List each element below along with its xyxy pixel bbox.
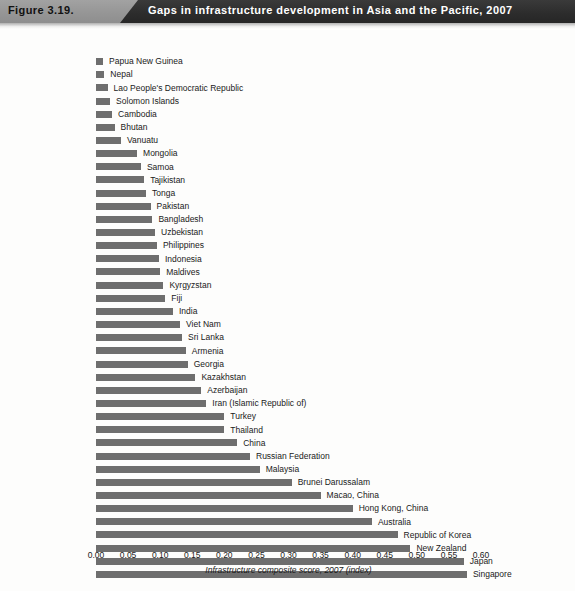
bar: [96, 439, 237, 446]
bar: [96, 361, 188, 368]
bar: [96, 203, 151, 210]
bar: [96, 374, 195, 381]
bar-label: Georgia: [194, 360, 224, 369]
bar-row: India: [96, 305, 197, 318]
bar-label: Samoa: [147, 163, 174, 172]
bar-row: Vanuatu: [96, 134, 158, 147]
bar-label: Mongolia: [143, 149, 178, 158]
bar: [96, 282, 163, 289]
bar: [96, 268, 160, 275]
bar-row: Uzbekistan: [96, 226, 203, 239]
x-tick-label: 0.35: [312, 550, 329, 560]
bar: [96, 111, 112, 118]
figure-title: Gaps in infrastructure development in As…: [148, 4, 513, 16]
bar: [96, 426, 224, 433]
bar-row: Indonesia: [96, 252, 202, 265]
x-tick-label: 0.50: [409, 550, 426, 560]
bar-label: Indonesia: [165, 255, 202, 264]
bar-row: Brunei Darussalam: [96, 476, 370, 489]
bar: [96, 98, 110, 105]
x-axis-ticks: 0.000.050.100.150.200.250.300.350.400.45…: [96, 550, 481, 564]
bar: [96, 124, 115, 131]
bar-row: Malaysia: [96, 463, 299, 476]
bar-label: Uzbekistan: [161, 228, 203, 237]
bar-label: Azerbaijan: [207, 386, 247, 395]
bar-row: Sri Lanka: [96, 331, 224, 344]
bar-row: Macao, China: [96, 489, 379, 502]
bar: [96, 387, 201, 394]
bar: [96, 58, 103, 65]
bar-row: Viet Nam: [96, 318, 221, 331]
bar-label: Maldives: [166, 268, 200, 277]
bar: [96, 453, 250, 460]
figure-number: Figure 3.19.: [8, 4, 74, 16]
bar-label: China: [243, 439, 265, 448]
bar-row: Azerbaijan: [96, 384, 247, 397]
bar: [96, 242, 157, 249]
bar: [96, 255, 159, 262]
bar-row: Fiji: [96, 292, 182, 305]
bar-label: Russian Federation: [256, 452, 330, 461]
bar-label: Sri Lanka: [188, 333, 224, 342]
bar-label: Pakistan: [157, 202, 190, 211]
bar-row: Papua New Guinea: [96, 55, 183, 68]
bar-label: Kazakhstan: [201, 373, 245, 382]
bar-row: Bangladesh: [96, 213, 203, 226]
bar: [96, 321, 180, 328]
bar-chart: Papua New GuineaNepalLao People's Democr…: [0, 29, 575, 591]
bar-row: Samoa: [96, 160, 174, 173]
bar: [96, 216, 152, 223]
bar: [96, 150, 137, 157]
bar: [96, 308, 173, 315]
bar-row: Australia: [96, 515, 411, 528]
bar: [96, 492, 321, 499]
bar-label: Tonga: [152, 189, 175, 198]
bar-row: Tajikistan: [96, 173, 185, 186]
x-tick-label: 0.60: [473, 550, 490, 560]
bar-label: Tajikistan: [150, 176, 185, 185]
bar-label: Papua New Guinea: [109, 57, 183, 66]
bar-row: Nepal: [96, 68, 133, 81]
bar-row: Iran (Islamic Republic of): [96, 397, 306, 410]
bar-label: Philippines: [163, 241, 204, 250]
bar-label: Lao People's Democratic Republic: [114, 84, 244, 93]
bar: [96, 413, 224, 420]
bar-label: Iran (Islamic Republic of): [212, 399, 306, 408]
bar-row: Republic of Korea: [96, 528, 471, 541]
x-tick-label: 0.30: [280, 550, 297, 560]
bar-row: Maldives: [96, 265, 200, 278]
figure-header: Figure 3.19. Gaps in infrastructure deve…: [0, 0, 575, 29]
bar-label: Kyrgyzstan: [169, 281, 211, 290]
bar: [96, 137, 121, 144]
bar: [96, 334, 182, 341]
bar-row: Cambodia: [96, 108, 157, 121]
bar: [96, 400, 206, 407]
bar: [96, 531, 398, 538]
bar-label: Fiji: [171, 294, 182, 303]
bar: [96, 466, 260, 473]
bar-row: Philippines: [96, 239, 204, 252]
bar-row: Lao People's Democratic Republic: [96, 81, 243, 94]
bar-row: Bhutan: [96, 121, 148, 134]
bar: [96, 505, 353, 512]
bar-row: Tonga: [96, 187, 175, 200]
bar-label: Armenia: [192, 347, 224, 356]
bar-row: Armenia: [96, 344, 223, 357]
x-tick-label: 0.40: [344, 550, 361, 560]
bar-label: Solomon Islands: [116, 97, 179, 106]
x-tick-label: 0.15: [184, 550, 201, 560]
bar-label: Turkey: [230, 412, 256, 421]
bar-row: Pakistan: [96, 200, 189, 213]
bar-label: Brunei Darussalam: [298, 478, 370, 487]
bar-label: Australia: [378, 518, 411, 527]
bar: [96, 190, 146, 197]
bar-row: Thailand: [96, 423, 263, 436]
x-tick-label: 0.05: [120, 550, 137, 560]
plot-area: Papua New GuineaNepalLao People's Democr…: [96, 55, 481, 542]
bar: [96, 176, 144, 183]
x-axis-title: Infrastructure composite score, 2007 (in…: [96, 565, 481, 575]
bar: [96, 71, 104, 78]
bar-row: Russian Federation: [96, 450, 330, 463]
bar-row: Turkey: [96, 410, 256, 423]
bar: [96, 229, 155, 236]
